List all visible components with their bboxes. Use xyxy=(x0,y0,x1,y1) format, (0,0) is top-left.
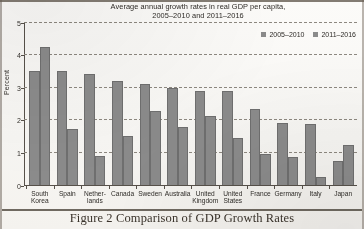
x-category-label-line2: Kingdom xyxy=(192,197,218,204)
x-tick-mark xyxy=(81,186,82,189)
y-tick-mark-0 xyxy=(21,186,24,187)
bar-group: Germany xyxy=(274,23,302,186)
x-tick-mark xyxy=(109,186,110,189)
x-category-label: Spain xyxy=(59,190,76,197)
x-category-label-line1: Australia xyxy=(165,190,191,197)
bar-series-1[interactable] xyxy=(140,84,151,185)
x-tick-mark xyxy=(164,186,165,189)
x-axis-line xyxy=(24,185,357,186)
bar-chart: Average annual growth rates in real GDP … xyxy=(0,0,364,209)
bar-series-2[interactable] xyxy=(233,138,244,186)
bar-group: Spain xyxy=(54,23,82,186)
bar-series-2[interactable] xyxy=(178,127,189,186)
bar-series-1[interactable] xyxy=(29,71,40,186)
bar-series-2[interactable] xyxy=(67,129,78,185)
bar-series-1[interactable] xyxy=(57,71,68,186)
x-tick-mark xyxy=(302,186,303,189)
x-category-label: Canada xyxy=(111,190,134,197)
x-tick-mark xyxy=(329,186,330,189)
x-category-label-line1: South xyxy=(31,190,48,197)
x-category-label: UnitedKingdom xyxy=(192,190,218,205)
bar-group: Nether-lands xyxy=(81,23,109,186)
x-category-label: Germany xyxy=(274,190,301,197)
bar-series-2[interactable] xyxy=(123,136,134,186)
figure-caption: Figure 2 Comparison of GDP Growth Rates xyxy=(0,211,364,226)
bar-series-1[interactable] xyxy=(305,124,316,186)
x-tick-mark xyxy=(26,186,27,189)
x-category-label-line1: Canada xyxy=(111,190,134,197)
bar-series-2[interactable] xyxy=(288,157,299,185)
x-category-label-line1: France xyxy=(250,190,271,197)
bar-group: Canada xyxy=(109,23,137,186)
plot-area: 012345 SouthKoreaSpainNether-landsCanada… xyxy=(24,23,357,186)
x-tick-mark xyxy=(136,186,137,189)
x-tick-mark xyxy=(274,186,275,189)
bar-series-1[interactable] xyxy=(222,91,233,185)
bar-series-1[interactable] xyxy=(250,109,261,186)
x-tick-mark xyxy=(191,186,192,189)
bar-series-2[interactable] xyxy=(95,156,106,185)
x-tick-mark xyxy=(54,186,55,189)
x-tick-mark xyxy=(247,186,248,189)
x-category-label: Italy xyxy=(310,190,322,197)
x-category-label-line1: Spain xyxy=(59,190,76,197)
bar-series-2[interactable] xyxy=(343,145,354,186)
chart-title: Average annual growth rates in real GDP … xyxy=(40,2,356,20)
bar-series-1[interactable] xyxy=(195,91,206,186)
bar-group: Japan xyxy=(329,23,357,186)
x-category-label: Nether-lands xyxy=(84,190,106,205)
bar-group: Sweden xyxy=(136,23,164,186)
x-category-label-line2: Korea xyxy=(31,197,49,204)
bar-series-2[interactable] xyxy=(205,116,216,185)
x-category-label-line1: Germany xyxy=(274,190,301,197)
chart-title-line2: 2005–2010 and 2011–2016 xyxy=(40,11,356,20)
x-category-label-line2: States xyxy=(223,197,242,204)
x-category-label-line1: Italy xyxy=(310,190,322,197)
bar-group: Italy xyxy=(302,23,330,186)
bar-series-1[interactable] xyxy=(84,74,95,186)
x-category-label: France xyxy=(250,190,271,197)
x-category-label: UnitedStates xyxy=(223,190,242,205)
bar-group: SouthKorea xyxy=(26,23,54,186)
x-category-label: Japan xyxy=(334,190,352,197)
x-category-label-line1: United xyxy=(223,190,242,197)
x-category-label-line1: Sweden xyxy=(138,190,162,197)
bar-series-2[interactable] xyxy=(260,154,271,186)
bar-series-2[interactable] xyxy=(40,47,51,186)
bar-series-1[interactable] xyxy=(333,161,344,186)
x-category-label: Australia xyxy=(165,190,191,197)
bar-group: UnitedStates xyxy=(219,23,247,186)
x-category-label: SouthKorea xyxy=(31,190,49,205)
bar-series-2[interactable] xyxy=(150,111,161,186)
x-category-label-line1: Japan xyxy=(334,190,352,197)
x-tick-mark xyxy=(219,186,220,189)
bar-group: Australia xyxy=(164,23,192,186)
chart-title-line1: Average annual growth rates in real GDP … xyxy=(111,2,286,11)
bar-groups: SouthKoreaSpainNether-landsCanadaSwedenA… xyxy=(24,23,357,186)
bar-group: UnitedKingdom xyxy=(191,23,219,186)
bar-group: France xyxy=(247,23,275,186)
bar-series-1[interactable] xyxy=(167,88,178,185)
x-category-label-line1: Nether- xyxy=(84,190,106,197)
x-category-label-line2: lands xyxy=(84,197,106,204)
bar-series-1[interactable] xyxy=(277,123,288,185)
bar-series-1[interactable] xyxy=(112,81,123,186)
y-axis-title: Percent xyxy=(3,70,10,95)
x-category-label: Sweden xyxy=(138,190,162,197)
scanned-page: Average annual growth rates in real GDP … xyxy=(0,0,364,229)
x-category-label-line1: United xyxy=(196,190,215,197)
